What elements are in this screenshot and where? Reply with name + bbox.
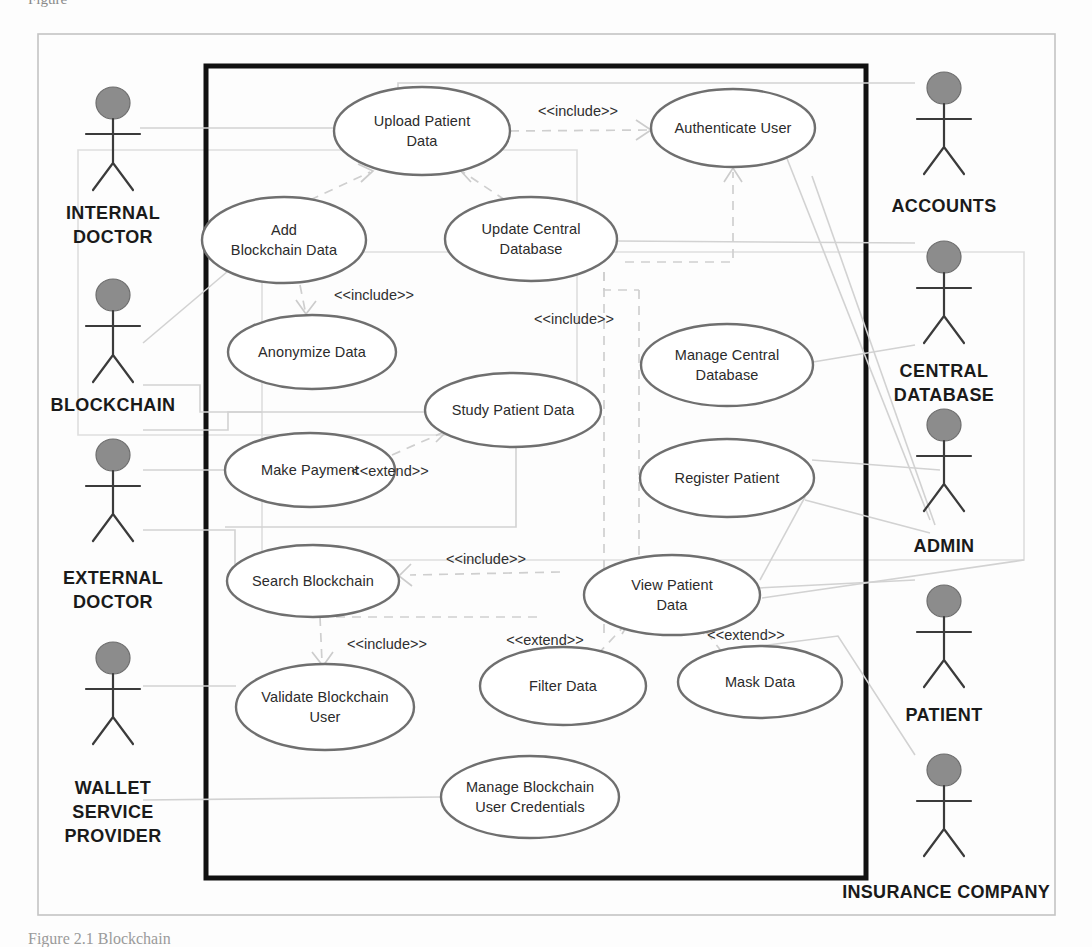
actor-label-line1: WALLET (75, 778, 151, 798)
assoc-register-admin-link (812, 460, 940, 470)
use-case-manage-blockchain-user-credentials[interactable]: Manage Blockchain User Credentials (441, 756, 619, 838)
use-case-label-line2: Data (406, 133, 438, 149)
use-case-label-line1: Mask Data (725, 674, 796, 690)
stereotype-include-validate-search: <<include>> (347, 636, 427, 652)
use-case-label-line2: User (309, 709, 340, 725)
system-boundary-label: INSURANCE COMPANY (842, 882, 1050, 902)
stereotype-extend-make-payment-study: <<extend>> (351, 463, 428, 479)
actor-label-line3: PROVIDER (64, 826, 161, 846)
use-case-ellipse[interactable] (334, 87, 510, 175)
use-case-label-line1: Filter Data (529, 678, 598, 694)
actor-admin[interactable]: ADMIN (914, 409, 975, 556)
use-case-filter-data[interactable]: Filter Data (480, 647, 646, 725)
use-case-validate-blockchain-user[interactable]: Validate Blockchain User (236, 664, 414, 750)
use-case-label-line1: View Patient (631, 577, 713, 593)
use-case-label-line2: Database (500, 241, 563, 257)
use-case-label-line1: Manage Central (675, 347, 780, 363)
actor-head-icon (96, 439, 130, 471)
assoc-blockchain-add (143, 266, 234, 343)
figure-caption-bottom-fragment: Figure 2.1 Blockchain (28, 930, 171, 947)
dep-horizontal-include-update (604, 272, 639, 290)
use-case-update-central-database[interactable]: Update Central Database (445, 197, 617, 281)
use-case-add-blockchain-data[interactable]: Add Blockchain Data (202, 197, 366, 283)
actor-body-icon (917, 441, 971, 511)
diagram-svg: Upload Patient Data Authenticate User Ad… (0, 0, 1092, 947)
use-case-label-line1: Anonymize Data (258, 344, 367, 360)
use-case-label-line2: Database (696, 367, 759, 383)
actor-head-icon (927, 72, 961, 104)
use-case-upload-patient-data[interactable]: Upload Patient Data (334, 87, 510, 175)
use-case-ellipse[interactable] (441, 756, 619, 838)
use-case-ellipse[interactable] (236, 664, 414, 750)
use-case-study-patient-data[interactable]: Study Patient Data (425, 373, 601, 447)
use-case-ellipse[interactable] (202, 197, 366, 283)
stereotype-extend-filter-view: <<extend>> (506, 632, 583, 648)
actor-head-icon (96, 279, 130, 311)
dep-validate-search (320, 617, 322, 662)
use-case-register-patient[interactable]: Register Patient (640, 439, 814, 517)
actor-label-line1: BLOCKCHAIN (51, 395, 176, 415)
assoc-admin-manage-central (812, 176, 935, 525)
stereotype-include-upload-authenticate: <<include>> (538, 103, 618, 119)
use-case-ellipse[interactable] (445, 197, 617, 281)
use-case-mask-data[interactable]: Mask Data (678, 646, 842, 718)
actor-label-line2: DOCTOR (73, 592, 153, 612)
use-case-label-line1: Study Patient Data (452, 402, 576, 418)
actor-blockchain[interactable]: BLOCKCHAIN (51, 279, 176, 415)
actor-body-icon (86, 119, 140, 190)
actor-wallet-service-provider[interactable]: WALLET SERVICE PROVIDER (64, 642, 161, 846)
stereotype-include-add-anonymize: <<include>> (334, 287, 414, 303)
use-case-search-blockchain[interactable]: Search Blockchain (227, 545, 399, 617)
use-case-label-line1: Manage Blockchain (466, 779, 594, 795)
use-case-authenticate-user[interactable]: Authenticate User (651, 89, 815, 167)
actor-central-database[interactable]: CENTRAL DATABASE (894, 241, 995, 405)
use-case-label-line1: Update Central (482, 221, 581, 237)
dep-search-study (410, 572, 560, 575)
actor-body-icon (917, 617, 971, 687)
use-case-label-line1: Authenticate User (675, 120, 792, 136)
dep-add-upload (310, 172, 370, 200)
dep-arrow-add-anonymize (296, 300, 316, 314)
actor-head-icon (927, 409, 961, 441)
actor-label-line1: INTERNAL (66, 203, 160, 223)
actor-head-icon (927, 585, 961, 617)
actor-internal-doctor[interactable]: INTERNAL DOCTOR (66, 87, 160, 247)
actor-label-line1: CENTRAL (900, 361, 989, 381)
actor-label-line2: DOCTOR (73, 227, 153, 247)
use-case-label-line1: Validate Blockchain (261, 689, 388, 705)
use-case-ellipse[interactable] (584, 555, 760, 635)
actor-label-line1: PATIENT (905, 705, 982, 725)
actor-insurance-company[interactable] (917, 754, 971, 856)
use-case-manage-central-database[interactable]: Manage Central Database (641, 324, 813, 406)
stereotype-extend-mask-view: <<extend>> (707, 627, 784, 643)
use-case-label-line2: User Credentials (475, 799, 585, 815)
actor-label-line1: ADMIN (914, 536, 975, 556)
use-case-label-line1: Add (271, 222, 297, 238)
actor-body-icon (917, 786, 971, 856)
dep-update-upload (463, 172, 505, 200)
actor-head-icon (927, 241, 961, 273)
actor-label-line2: SERVICE (72, 802, 154, 822)
stereotype-include-search-study: <<include>> (446, 551, 526, 567)
use-case-ellipse[interactable] (641, 324, 813, 406)
actor-body-icon (86, 674, 140, 744)
use-case-label-line1: Register Patient (675, 470, 780, 486)
use-case-label-line1: Search Blockchain (252, 573, 374, 589)
actor-external-doctor[interactable]: EXTERNAL DOCTOR (63, 439, 163, 612)
actor-body-icon (917, 104, 971, 174)
use-case-anonymize-data[interactable]: Anonymize Data (228, 315, 396, 389)
use-case-label-line1: Make Payment (261, 462, 359, 478)
dep-upload-authenticate (510, 130, 648, 131)
actor-accounts[interactable]: ACCOUNTS (891, 72, 996, 216)
use-case-label-line2: Data (656, 597, 688, 613)
actor-label-line1: EXTERNAL (63, 568, 163, 588)
actor-body-icon (917, 273, 971, 343)
actor-head-icon (96, 87, 130, 119)
use-case-label-line2: Blockchain Data (231, 242, 338, 258)
actor-body-icon (86, 311, 140, 382)
dep-update-authenticate (625, 172, 733, 262)
actor-head-icon (927, 754, 961, 786)
use-case-label-line1: Upload Patient (374, 113, 471, 129)
actor-patient[interactable]: PATIENT (905, 585, 982, 725)
use-case-view-patient-data[interactable]: View Patient Data (584, 555, 760, 635)
